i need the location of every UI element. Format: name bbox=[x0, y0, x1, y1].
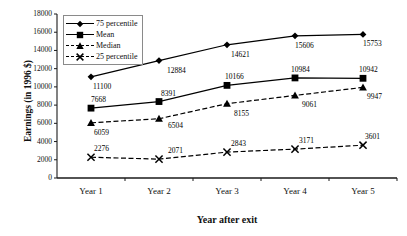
data-value-label: 2843 bbox=[231, 140, 246, 148]
data-value-label: 10942 bbox=[359, 66, 378, 74]
data-value-label: 8391 bbox=[161, 90, 176, 98]
legend-label: 25 percentile bbox=[94, 52, 138, 61]
legend-key bbox=[66, 18, 94, 29]
x-tick-label: Year 1 bbox=[61, 186, 121, 196]
data-value-label: 15753 bbox=[363, 40, 382, 48]
legend-item-median[interactable]: Median bbox=[66, 40, 138, 51]
legend-key bbox=[66, 51, 94, 62]
triangle-marker bbox=[291, 92, 299, 99]
data-value-label: 8155 bbox=[234, 110, 249, 118]
legend-key bbox=[66, 40, 94, 51]
legend-label: Median bbox=[94, 41, 120, 50]
diamond-marker bbox=[292, 32, 299, 39]
data-value-label: 9061 bbox=[302, 101, 317, 109]
diamond-marker bbox=[156, 57, 163, 64]
diamond-marker bbox=[77, 21, 83, 27]
triangle-marker bbox=[359, 83, 367, 90]
data-value-label: 12884 bbox=[167, 67, 186, 75]
x-marker bbox=[77, 54, 84, 61]
square-marker bbox=[88, 105, 95, 112]
data-value-label: 6059 bbox=[94, 129, 109, 137]
legend-key bbox=[66, 29, 94, 40]
square-marker bbox=[156, 98, 163, 105]
series-25-percentile bbox=[87, 142, 366, 163]
x-axis-tick-labels: Year 1Year 2Year 3Year 4Year 5 bbox=[57, 186, 397, 200]
data-value-label: 15606 bbox=[295, 42, 314, 50]
x-icon bbox=[74, 51, 86, 63]
x-tick-label: Year 5 bbox=[333, 186, 393, 196]
legend-item-mean[interactable]: Mean bbox=[66, 29, 138, 40]
triangle-marker bbox=[76, 42, 83, 49]
data-value-label: 7668 bbox=[91, 96, 106, 104]
data-value-label: 6504 bbox=[168, 122, 183, 130]
x-tick-label: Year 4 bbox=[265, 186, 325, 196]
data-value-label: 14621 bbox=[231, 51, 250, 59]
x-tick-label: Year 3 bbox=[197, 186, 257, 196]
legend-label: Mean bbox=[94, 30, 114, 39]
chart-legend: 75 percentileMeanMedian25 percentile bbox=[63, 15, 143, 65]
legend-item-75-percentile[interactable]: 75 percentile bbox=[66, 18, 138, 29]
x-axis-title: Year after exit bbox=[57, 214, 397, 225]
earnings-line-chart: Earnings (in 1996 $) 1800016000140001200… bbox=[0, 0, 407, 236]
square-marker bbox=[224, 82, 231, 89]
plot-area bbox=[0, 0, 407, 236]
data-value-label: 9947 bbox=[367, 93, 382, 101]
diamond-marker bbox=[88, 73, 95, 80]
square-marker bbox=[77, 32, 83, 38]
data-value-label: 3171 bbox=[299, 137, 314, 145]
data-value-label: 10166 bbox=[225, 73, 244, 81]
legend-item-25-percentile[interactable]: 25 percentile bbox=[66, 51, 138, 62]
triangle-marker bbox=[223, 100, 231, 107]
data-value-label: 10984 bbox=[291, 66, 310, 74]
square-marker bbox=[292, 75, 299, 82]
diamond-marker bbox=[224, 41, 231, 48]
legend-label: 75 percentile bbox=[94, 19, 138, 28]
data-value-label: 3601 bbox=[365, 133, 380, 141]
x-tick-label: Year 2 bbox=[129, 186, 189, 196]
square-marker bbox=[360, 75, 367, 82]
data-value-label: 11100 bbox=[93, 83, 111, 91]
data-value-label: 2071 bbox=[168, 147, 183, 155]
data-value-label: 2276 bbox=[94, 145, 109, 153]
diamond-marker bbox=[360, 31, 367, 38]
